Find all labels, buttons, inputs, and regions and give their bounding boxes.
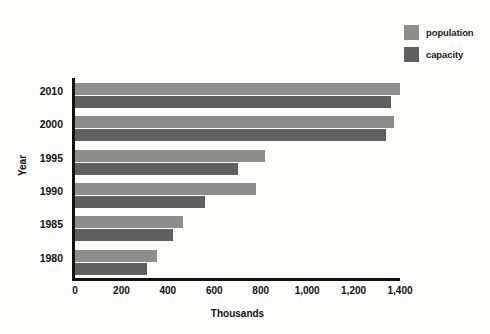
legend-swatch-capacity bbox=[404, 47, 419, 62]
legend-item-capacity: capacity bbox=[404, 44, 490, 64]
x-axis-tick-labels: 02004006008001,0001,2001,400 bbox=[75, 285, 415, 301]
bar-population-1990 bbox=[75, 183, 256, 195]
y-axis-tick-labels: 201020001995199019851980 bbox=[0, 78, 70, 278]
x-tick-400: 400 bbox=[145, 285, 191, 296]
legend-label-capacity: capacity bbox=[426, 49, 463, 60]
chart-legend: population capacity bbox=[404, 22, 490, 66]
x-tick-1400: 1,400 bbox=[377, 285, 423, 296]
bar-chart: population capacity Year 201020001995199… bbox=[0, 0, 490, 334]
y-tick-1980: 1980 bbox=[3, 253, 63, 264]
bar-population-2000 bbox=[75, 116, 394, 128]
legend-item-population: population bbox=[404, 22, 490, 42]
bar-capacity-1985 bbox=[75, 229, 173, 241]
y-tick-1990: 1990 bbox=[3, 186, 63, 197]
bar-capacity-2010 bbox=[75, 96, 391, 108]
bar-capacity-1980 bbox=[75, 263, 147, 275]
x-tick-1200: 1,200 bbox=[331, 285, 377, 296]
bar-population-1985 bbox=[75, 216, 183, 228]
y-tick-2010: 2010 bbox=[3, 86, 63, 97]
x-axis-title: Thousands bbox=[75, 308, 400, 319]
x-tick-1000: 1,000 bbox=[284, 285, 330, 296]
bar-group bbox=[75, 78, 400, 111]
bar-capacity-2000 bbox=[75, 129, 386, 141]
x-tick-200: 200 bbox=[98, 285, 144, 296]
bar-group bbox=[75, 145, 400, 178]
x-tick-800: 800 bbox=[238, 285, 284, 296]
y-tick-1995: 1995 bbox=[3, 153, 63, 164]
bar-population-1980 bbox=[75, 250, 157, 262]
legend-label-population: population bbox=[426, 27, 474, 38]
bar-capacity-1990 bbox=[75, 196, 205, 208]
plot-area bbox=[75, 78, 400, 278]
bar-population-2010 bbox=[75, 83, 400, 95]
x-tick-0: 0 bbox=[52, 285, 98, 296]
bar-group bbox=[75, 245, 400, 278]
legend-swatch-population bbox=[404, 25, 419, 40]
bar-capacity-1995 bbox=[75, 163, 238, 175]
x-axis-line bbox=[72, 278, 400, 281]
y-tick-1985: 1985 bbox=[3, 219, 63, 230]
bar-population-1995 bbox=[75, 150, 265, 162]
bar-group bbox=[75, 178, 400, 211]
x-tick-600: 600 bbox=[191, 285, 237, 296]
y-tick-2000: 2000 bbox=[3, 119, 63, 130]
bar-group bbox=[75, 111, 400, 144]
bar-group bbox=[75, 211, 400, 244]
